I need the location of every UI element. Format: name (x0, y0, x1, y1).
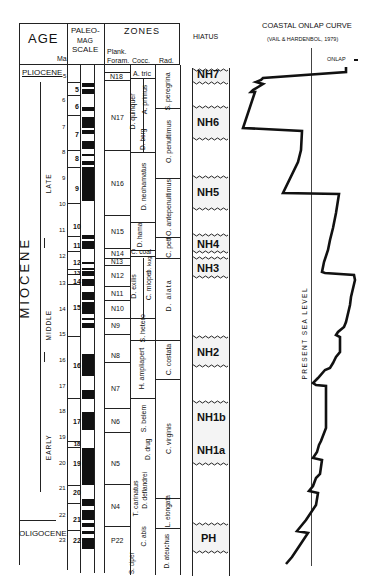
onlap-curve (0, 0, 383, 586)
